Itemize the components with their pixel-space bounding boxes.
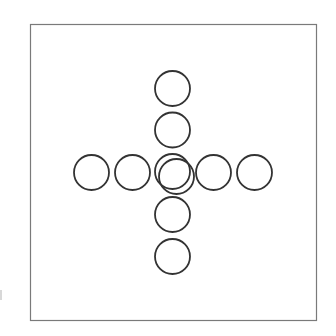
circle-left-outer <box>74 155 109 190</box>
edge-artifact-mark <box>0 290 2 300</box>
cross-of-circles-figure <box>0 0 336 336</box>
circle-top-inner <box>155 113 190 148</box>
circle-cross-group <box>74 71 272 274</box>
circle-left-inner <box>115 155 150 190</box>
circle-right-inner <box>196 155 231 190</box>
circle-top-outer <box>155 71 190 106</box>
circle-bottom-outer <box>155 239 190 274</box>
circle-right-outer <box>237 155 272 190</box>
circle-bottom-inner <box>155 197 190 232</box>
